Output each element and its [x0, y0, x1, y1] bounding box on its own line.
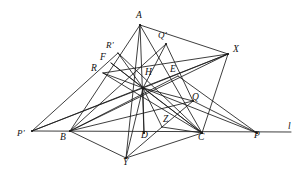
- segment-X-C: [202, 54, 228, 133]
- vertex-dot-A: [139, 24, 141, 26]
- point-label-H: H: [145, 68, 152, 78]
- segment-Q-P: [193, 101, 257, 133]
- point-label-Y: Y: [123, 158, 128, 168]
- point-label-Z: Z: [163, 115, 168, 125]
- point-label-P: P: [254, 131, 260, 141]
- point-label-B: B: [60, 133, 66, 143]
- segment-Y-C: [126, 133, 202, 158]
- side-AB: [70, 25, 140, 131]
- segment-Rp-Pp: [32, 53, 118, 131]
- point-label-A: A: [136, 11, 142, 21]
- segment-B-Qp: [70, 44, 166, 131]
- point-label-Q: Q: [192, 93, 199, 103]
- segment-H-Q: [143, 88, 193, 101]
- point-label-Rp: R': [106, 41, 114, 50]
- point-label-D: D: [141, 131, 148, 141]
- vertex-dot-Qp: [165, 43, 167, 45]
- geometry-figure: AQ'XR'FERHQP'BDZCPYl: [0, 0, 305, 176]
- segment-C-R: [103, 73, 202, 133]
- point-label-C: C: [198, 133, 205, 143]
- segment-A-X: [140, 25, 228, 54]
- vertex-dot-Pp: [31, 130, 33, 132]
- side-AC: [140, 25, 202, 133]
- segments-group: [32, 25, 291, 158]
- geometry-diagram-canvas: [0, 0, 305, 176]
- vertex-dot-X: [227, 53, 229, 55]
- point-label-R: R: [91, 64, 97, 74]
- point-label-l: l: [288, 122, 291, 132]
- point-label-Pp: P': [17, 129, 25, 138]
- point-label-F: F: [100, 53, 106, 63]
- point-label-Qp: Q': [158, 31, 167, 40]
- point-label-E: E: [170, 65, 176, 75]
- segment-B-Y: [70, 131, 126, 158]
- segment-H-R: [103, 73, 143, 88]
- vertex-dot-H: [141, 86, 144, 89]
- segment-H-F: [111, 63, 143, 88]
- segment-H-Pp: [32, 88, 143, 131]
- segment-H-P: [143, 88, 257, 133]
- vertex-dot-B: [69, 130, 71, 132]
- point-label-X: X: [233, 45, 239, 55]
